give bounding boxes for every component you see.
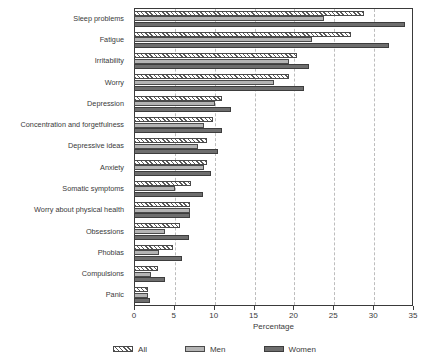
bar-women — [134, 22, 405, 27]
y-axis-label: Depressive ideas — [0, 142, 124, 150]
x-tick-mark-35 — [413, 306, 414, 310]
bar-group — [134, 136, 413, 157]
legend-swatch-men — [185, 346, 205, 352]
bar-all — [134, 74, 289, 79]
legend-swatch-all — [113, 346, 133, 352]
bar-men — [134, 101, 215, 106]
x-axis-title: Percentage — [134, 322, 413, 331]
x-tick-label-30: 30 — [369, 311, 378, 320]
bar-all — [134, 287, 148, 292]
bar-all — [134, 96, 222, 101]
bar-women — [134, 298, 150, 303]
bar-group — [134, 29, 413, 50]
y-axis-label: Anxiety — [0, 164, 124, 172]
x-tick-label-0: 0 — [132, 311, 136, 320]
x-tick-label-5: 5 — [172, 311, 176, 320]
bar-group — [134, 72, 413, 93]
bar-men — [134, 80, 274, 85]
bar-women — [134, 64, 309, 69]
legend-label: All — [138, 345, 147, 354]
bar-women — [134, 107, 231, 112]
y-axis-label: Compulsions — [0, 270, 124, 278]
y-axis-label: Depression — [0, 100, 124, 108]
bar-women — [134, 171, 211, 176]
x-tick-mark-5 — [174, 306, 175, 310]
legend-label: Men — [210, 345, 226, 354]
bar-group — [134, 200, 413, 221]
x-tick-label-20: 20 — [289, 311, 298, 320]
bar-all — [134, 245, 173, 250]
x-tick-mark-25 — [333, 306, 334, 310]
bar-all — [134, 223, 180, 228]
bar-all — [134, 117, 213, 122]
bar-all — [134, 266, 158, 271]
chart-legend: AllMenWomen — [0, 341, 429, 357]
bar-men — [134, 208, 190, 213]
bar-group — [134, 178, 413, 199]
bar-women — [134, 213, 190, 218]
bar-all — [134, 160, 207, 165]
bar-group — [134, 114, 413, 135]
x-axis-ticks: 05101520253035 — [134, 306, 413, 322]
bar-men — [134, 123, 204, 128]
bar-men — [134, 16, 324, 21]
bar-all — [134, 138, 207, 143]
bar-group — [134, 242, 413, 263]
bar-all — [134, 181, 191, 186]
bar-women — [134, 235, 189, 240]
bar-men — [134, 186, 175, 191]
bar-group — [134, 263, 413, 284]
legend-item-all[interactable]: All — [113, 345, 147, 354]
bar-all — [134, 53, 297, 58]
y-axis-label: Phobias — [0, 249, 124, 257]
bar-women — [134, 86, 304, 91]
x-tick-mark-15 — [254, 306, 255, 310]
x-tick-label-10: 10 — [209, 311, 218, 320]
bar-group — [134, 221, 413, 242]
x-tick-label-15: 15 — [249, 311, 258, 320]
x-tick-mark-30 — [373, 306, 374, 310]
bar-men — [134, 59, 289, 64]
bar-men — [134, 37, 312, 42]
y-axis-label: Obsessions — [0, 228, 124, 236]
x-tick-label-35: 35 — [409, 311, 418, 320]
bar-groups — [134, 8, 413, 306]
bar-women — [134, 149, 218, 154]
y-axis-label: Panic — [0, 291, 124, 299]
y-axis-label: Somatic symptoms — [0, 185, 124, 193]
x-tick-label-25: 25 — [329, 311, 338, 320]
bar-group — [134, 51, 413, 72]
bar-all — [134, 202, 190, 207]
bar-group — [134, 285, 413, 306]
bar-all — [134, 32, 351, 37]
bar-group — [134, 157, 413, 178]
bar-men — [134, 272, 151, 277]
bar-women — [134, 277, 165, 282]
bar-women — [134, 192, 203, 197]
legend-item-women[interactable]: Women — [264, 345, 316, 354]
y-axis-label: Fatigue — [0, 36, 124, 44]
legend-item-men[interactable]: Men — [185, 345, 226, 354]
bar-men — [134, 165, 204, 170]
y-axis-labels: Sleep problemsFatigueIrritabilityWorryDe… — [0, 8, 130, 306]
y-axis-label: Sleep problems — [0, 15, 124, 23]
y-axis-label: Worry — [0, 79, 124, 87]
bar-men — [134, 293, 148, 298]
bar-men — [134, 229, 165, 234]
y-axis-label: Concentration and forgetfulness — [0, 121, 124, 129]
bar-women — [134, 128, 222, 133]
x-tick-mark-10 — [214, 306, 215, 310]
bar-men — [134, 144, 198, 149]
y-axis-label: Irritability — [0, 57, 124, 65]
bar-women — [134, 43, 389, 48]
x-tick-mark-20 — [293, 306, 294, 310]
bar-group — [134, 8, 413, 29]
legend-swatch-women — [264, 346, 284, 352]
y-axis-label: Worry about physical health — [0, 206, 124, 214]
bar-all — [134, 11, 364, 16]
bar-men — [134, 250, 159, 255]
x-tick-mark-0 — [134, 306, 135, 310]
bar-group — [134, 93, 413, 114]
legend-label: Women — [289, 345, 316, 354]
bar-chart: Sleep problemsFatigueIrritabilityWorryDe… — [0, 0, 429, 364]
